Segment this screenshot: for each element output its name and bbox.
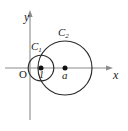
circle-c1-label: C1 (31, 41, 42, 52)
x-axis-arrowhead (106, 65, 113, 70)
circle-c2-label: C2 (58, 27, 69, 38)
point-label-one: 1 (39, 70, 44, 80)
circle-c1-label-subscript: 1 (38, 46, 42, 54)
figure-canvas (0, 0, 128, 131)
geometry-figure: y x O C1 C2 1 a (0, 0, 128, 131)
point-label-a: a (62, 70, 68, 81)
circle-c2-label-subscript: 2 (65, 32, 69, 40)
origin-label: O (19, 69, 27, 80)
x-axis-label: x (113, 69, 118, 81)
y-axis-label: y (24, 11, 29, 23)
